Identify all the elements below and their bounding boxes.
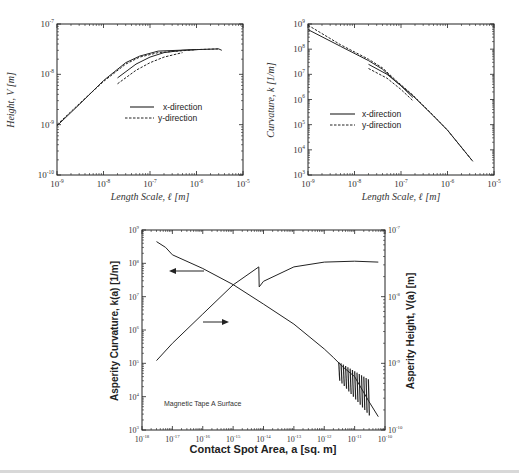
series-line — [369, 69, 413, 101]
curvature-chart: 10-910-810-710-610-510310410510610710810… — [293, 18, 501, 189]
tick-label: 108 — [129, 259, 140, 269]
tick-label: 10-11 — [348, 434, 363, 444]
arrow-to-left-axis-icon — [169, 268, 204, 274]
series-line — [308, 25, 473, 161]
tick-label: 10-5 — [236, 178, 250, 189]
tick-label: 10-9 — [41, 119, 55, 130]
tl-legend: x-direction y-direction — [125, 102, 202, 123]
tick-label: 10-10 — [388, 425, 403, 435]
tick-label: 105 — [293, 119, 305, 130]
tick-label: 107 — [129, 292, 140, 302]
tick-label: 10-10 — [378, 434, 393, 444]
tick-label: 10-7 — [41, 18, 55, 29]
tick-label: 109 — [129, 225, 140, 235]
tl-legend-x: x-direction — [163, 102, 202, 112]
tick-label: 106 — [293, 93, 305, 104]
tick-label: 10-8 — [97, 178, 111, 189]
series-line — [118, 50, 197, 78]
arrow-to-right-axis-icon — [203, 319, 229, 325]
series-line — [157, 261, 379, 360]
tl-legend-y: y-direction — [158, 113, 197, 123]
tick-label: 10-17 — [165, 434, 180, 444]
tick-label: 10-7 — [394, 178, 408, 189]
tl-x-axis-label: Length Scale, ℓ [m] — [110, 191, 190, 202]
tick-label: 10-18 — [135, 434, 150, 444]
tick-label: 10-8 — [348, 178, 362, 189]
tick-label: 10-9 — [50, 178, 64, 189]
tick-label: 104 — [293, 144, 305, 155]
series-line — [157, 242, 379, 417]
tick-label: 10-8 — [388, 292, 401, 302]
tl-y-axis-label: Height, V [m] — [5, 72, 16, 129]
tick-label: 10-6 — [441, 178, 455, 189]
tick-label: 107 — [293, 68, 305, 79]
b-right-y-axis-label: Asperity Height, V(a) [m] — [405, 273, 416, 390]
tr-y-axis-label: Curvature, k [1/m] — [265, 62, 276, 138]
figure-canvas: 10-910-810-710-610-510-1010-910-810-7 10… — [0, 0, 519, 473]
tr-legend: x-direction y-direction — [330, 109, 401, 130]
tick-label: 10-6 — [190, 178, 204, 189]
tr-x-axis-label: Length Scale, ℓ [m] — [361, 191, 441, 202]
tr-legend-x: x-direction — [362, 109, 401, 119]
b-annotation: Magnetic Tape A Surface — [164, 400, 241, 408]
tick-label: 10-8 — [41, 68, 55, 79]
tick-label: 105 — [129, 359, 140, 369]
tick-label: 10-9 — [388, 359, 401, 369]
b-x-axis-label: Contact Spot Area, a [sq. m] — [190, 443, 337, 455]
tr-legend-y: y-direction — [362, 120, 401, 130]
b-left-y-axis-label: Asperity Curvature, k(a) [1/m] — [109, 261, 120, 401]
tick-label: 103 — [129, 425, 140, 435]
tick-label: 108 — [293, 43, 305, 54]
tick-label: 10-5 — [487, 178, 501, 189]
tick-label: 10-7 — [388, 225, 401, 235]
tick-label: 104 — [129, 392, 140, 402]
tick-label: 10-7 — [143, 178, 157, 189]
tick-label: 10-9 — [301, 178, 315, 189]
tick-label: 106 — [129, 325, 140, 335]
height-chart: 10-910-810-710-610-510-1010-910-810-7 — [38, 18, 250, 189]
asperity-chart: 10-1810-1710-1610-1510-1410-1310-1210-11… — [129, 225, 403, 444]
series-line — [308, 30, 473, 162]
tick-label: 109 — [293, 18, 305, 29]
